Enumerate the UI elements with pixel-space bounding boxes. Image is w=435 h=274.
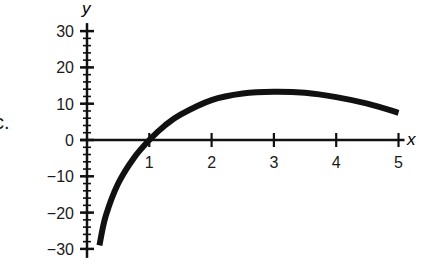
y-tick-label: −20 — [47, 205, 74, 222]
line-chart: 3020100−10−20−30 12345 y x — [0, 0, 435, 274]
y-tick-label: −30 — [47, 241, 74, 258]
y-tick-label: −10 — [47, 168, 74, 185]
x-tick-label: 3 — [269, 154, 278, 171]
y-tick-label: 20 — [56, 59, 74, 76]
x-tick-label: 4 — [332, 154, 341, 171]
x-tick-label: 5 — [394, 154, 403, 171]
x-axis-label: x — [406, 130, 416, 149]
y-tick-label: 10 — [56, 96, 74, 113]
x-tick-label: 1 — [145, 154, 154, 171]
y-axis-label: y — [81, 0, 92, 18]
y-tick-label: 30 — [56, 23, 74, 40]
x-tick-label: 2 — [207, 154, 216, 171]
y-tick-label: 0 — [65, 132, 74, 149]
